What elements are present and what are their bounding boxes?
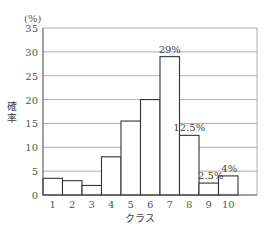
x-tick-label: 5 [128,199,134,210]
bar-chart: 05101520253035 12345678910 29%12.5%2.5%4… [0,0,270,231]
bar-annotation: 2.5% [198,170,223,181]
y-tick-label: 15 [25,118,38,129]
y-tick-label: 5 [32,166,38,177]
x-tick-labels: 12345678910 [50,199,235,210]
x-tick-label: 4 [108,199,114,210]
y-tick-labels: 05101520253035 [25,23,38,201]
x-tick-label: 9 [206,199,212,210]
x-tick-label: 10 [222,199,235,210]
x-tick-label: 3 [89,199,95,210]
y-tick-label: 35 [25,23,38,34]
bar-9 [199,183,219,195]
bar-annotation: 29% [159,44,181,55]
y-tick-label: 20 [25,95,38,106]
y-tick-label: 10 [25,142,38,153]
x-tick-label: 1 [50,199,56,210]
bar-annotation: 4% [221,163,237,174]
x-tick-label: 8 [186,199,192,210]
x-axis-label: クラス [125,213,155,224]
bar-1 [43,178,63,195]
y-axis-unit: (%) [24,13,41,24]
bar-annotation: 12.5% [173,122,205,133]
y-tick-label: 25 [25,71,38,82]
bar-6 [141,100,161,195]
y-axis-label: 確率 [7,100,17,124]
y-tick-label: 0 [32,190,38,201]
x-tick-label: 7 [167,199,173,210]
x-tick-label: 2 [69,199,75,210]
y-tick-label: 30 [25,47,38,58]
bar-3 [82,185,102,195]
x-tick-label: 6 [147,199,153,210]
bar-8 [180,135,200,195]
bar-2 [63,181,83,195]
bar-4 [102,157,122,195]
bar-5 [121,121,141,195]
